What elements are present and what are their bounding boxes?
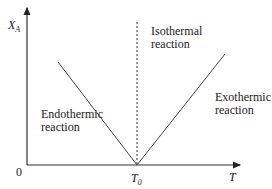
origin-label: 0 bbox=[16, 166, 22, 179]
exothermic-line bbox=[137, 54, 225, 165]
y-axis-label: XA bbox=[8, 19, 20, 36]
x-axis-label: T bbox=[229, 171, 236, 184]
isothermal-label: Isothermal reaction bbox=[151, 25, 202, 51]
vertex-label: T0 bbox=[131, 172, 142, 189]
endothermic-label: Endothermic reaction bbox=[41, 108, 103, 134]
exothermic-label: Exothermic reaction bbox=[215, 91, 271, 117]
